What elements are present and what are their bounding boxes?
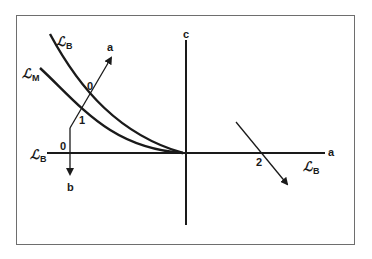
script-symbol: ℒ	[56, 34, 65, 49]
script-symbol: ℒ	[30, 147, 39, 162]
axis-right-label: ℒB	[303, 160, 320, 176]
axis-left-label: ℒB	[30, 148, 47, 164]
curve-m-label: ℒM	[22, 67, 40, 83]
arrow-b-label: b	[67, 182, 74, 193]
curve-b-label: ℒB	[56, 35, 73, 51]
arrow-a	[70, 58, 111, 128]
axis-c-label: c	[183, 29, 189, 40]
point-0-axis: 0	[60, 141, 66, 152]
script-symbol: ℒ	[303, 159, 312, 174]
arrow-a-label: a	[107, 42, 113, 53]
point-2: 2	[256, 157, 262, 168]
point-0-upper: 0	[87, 81, 93, 92]
axis-a-label: a	[328, 147, 334, 158]
script-symbol: ℒ	[22, 66, 31, 81]
point-1: 1	[79, 115, 85, 126]
